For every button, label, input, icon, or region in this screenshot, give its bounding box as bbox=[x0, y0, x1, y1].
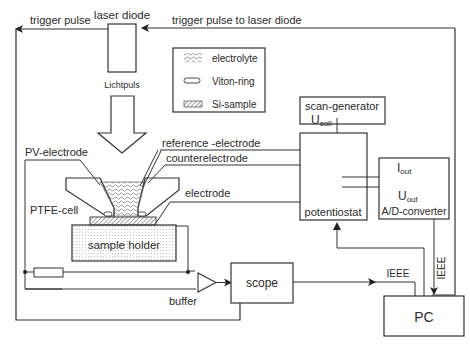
reference-electrode-label: reference -electrode bbox=[162, 137, 260, 149]
svg-text:electrolyte: electrolyte bbox=[212, 53, 258, 64]
si-sample-hatch-icon bbox=[184, 101, 202, 107]
trigger-to-laser-label: trigger pulse to laser diode bbox=[172, 14, 302, 26]
trigger-pulse-label: trigger pulse bbox=[30, 14, 91, 26]
viton-ring-icon bbox=[184, 78, 200, 83]
junction-dot-left bbox=[23, 270, 27, 274]
potentiostat-label: potentiostat bbox=[305, 206, 362, 218]
scan-generator-label: scan-generator bbox=[305, 100, 379, 112]
pv-electrode-label: PV-electrode bbox=[25, 146, 88, 158]
ptfe-cell-label: PTFE-cell bbox=[30, 204, 78, 216]
lichtpuls-label: Lichtpuls bbox=[104, 80, 140, 90]
viton-ring-left bbox=[104, 212, 112, 216]
sample-holder-label: sample holder bbox=[88, 239, 160, 251]
si-sample-layer bbox=[90, 217, 156, 225]
ieee-horizontal-label: IEEE bbox=[387, 268, 410, 279]
electrolyte-wave-icon bbox=[184, 53, 202, 62]
viton-ring-right bbox=[138, 212, 146, 216]
counterelectrode-label: counterelectrode bbox=[166, 152, 248, 164]
scope-label: scope bbox=[246, 276, 278, 290]
buffer-amplifier-icon bbox=[198, 273, 216, 292]
svg-text:Si-sample: Si-sample bbox=[212, 99, 257, 110]
experimental-setup-diagram: laser diode trigger pulse trigger pulse … bbox=[0, 0, 470, 346]
pc-label: PC bbox=[414, 309, 433, 325]
sample-holder-lead bbox=[176, 226, 195, 271]
resistor-icon bbox=[34, 268, 63, 277]
ad-converter-label: A/D-converter bbox=[382, 205, 447, 217]
pc-to-potentiostat-line bbox=[337, 224, 424, 296]
ieee-vertical-label: IEEE bbox=[436, 256, 447, 279]
svg-text:Viton-ring: Viton-ring bbox=[212, 76, 255, 87]
laser-diode-label: laser diode bbox=[94, 9, 150, 21]
electrode-lead bbox=[156, 202, 306, 223]
junction-dot-right bbox=[186, 270, 190, 274]
electrode-label: electrode bbox=[185, 187, 230, 199]
laser-diode-box bbox=[108, 24, 136, 72]
light-pulse-arrow-icon bbox=[98, 96, 146, 153]
buffer-label: buffer bbox=[169, 295, 197, 307]
